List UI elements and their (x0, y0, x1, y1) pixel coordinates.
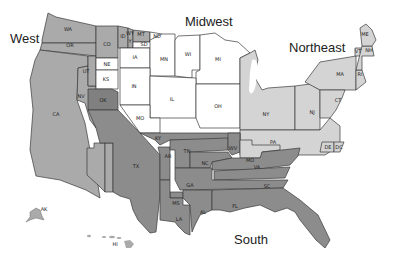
svg-text:DC: DC (335, 144, 343, 150)
svg-text:CO: CO (103, 41, 110, 47)
state-ct[interactable] (320, 90, 345, 118)
svg-text:WY: WY (126, 30, 135, 36)
svg-text:MS: MS (172, 200, 180, 206)
svg-text:OR: OR (66, 42, 74, 48)
us-regions-map: WA OR CA NV UT CO ID WY Y MT ND SD NE KS… (0, 0, 393, 263)
svg-text:PA: PA (270, 139, 277, 145)
svg-text:ID: ID (120, 33, 125, 39)
svg-text:KY: KY (155, 135, 162, 141)
state-hi[interactable] (87, 235, 134, 248)
state-ms[interactable] (170, 192, 183, 198)
state-ny[interactable] (240, 50, 295, 130)
svg-text:OH: OH (214, 103, 222, 109)
svg-text:AK: AK (41, 206, 48, 212)
svg-text:WA: WA (64, 26, 73, 32)
svg-text:NH: NH (365, 47, 373, 53)
state-mn[interactable] (150, 34, 175, 76)
svg-text:LA: LA (176, 216, 183, 222)
svg-text:MA: MA (336, 71, 344, 77)
svg-text:NJ: NJ (309, 109, 314, 115)
svg-text:NY: NY (263, 111, 271, 117)
svg-text:MO: MO (136, 115, 144, 121)
state-wv[interactable] (228, 133, 240, 155)
svg-text:IL: IL (170, 96, 174, 102)
svg-text:WV: WV (229, 145, 238, 151)
svg-text:WI: WI (185, 51, 191, 57)
svg-text:AL: AL (200, 209, 206, 215)
svg-text:TX: TX (132, 163, 140, 169)
svg-text:ME: ME (361, 31, 368, 37)
svg-text:OK: OK (99, 97, 107, 103)
svg-text:MI: MI (215, 56, 221, 62)
state-nm[interactable] (105, 143, 113, 192)
svg-text:SC: SC (264, 183, 271, 189)
svg-text:NC: NC (201, 160, 209, 166)
svg-text:MT: MT (137, 31, 145, 37)
region-label-northeast: Northeast (289, 40, 346, 55)
svg-text:CT: CT (335, 97, 342, 103)
svg-text:MO: MO (246, 157, 254, 163)
state-ar[interactable] (158, 147, 170, 180)
state-nj[interactable] (295, 84, 320, 130)
svg-text:TN: TN (183, 148, 191, 154)
svg-text:VA: VA (254, 164, 261, 170)
svg-text:MN: MN (160, 56, 168, 62)
svg-text:NE: NE (104, 61, 111, 67)
svg-text:IA: IA (133, 54, 138, 60)
svg-text:GA: GA (186, 182, 194, 188)
svg-text:AR: AR (165, 153, 172, 159)
svg-text:DE: DE (324, 144, 331, 150)
svg-text:VT: VT (355, 48, 362, 54)
state-fl[interactable] (212, 188, 330, 248)
svg-text:NV: NV (77, 93, 85, 99)
svg-text:FL: FL (232, 203, 238, 209)
svg-text:KS: KS (103, 76, 109, 82)
svg-text:HI: HI (112, 241, 117, 247)
region-label-west: West (10, 31, 40, 46)
svg-text:UT: UT (83, 68, 91, 74)
svg-text:CA: CA (53, 111, 60, 117)
svg-text:ND: ND (153, 33, 161, 39)
region-label-midwest: Midwest (185, 14, 233, 29)
region-label-south: South (234, 232, 268, 247)
svg-text:IN: IN (131, 83, 136, 89)
svg-text:RI: RI (358, 71, 363, 77)
svg-text:SD: SD (140, 41, 147, 47)
state-ma[interactable] (305, 56, 356, 90)
